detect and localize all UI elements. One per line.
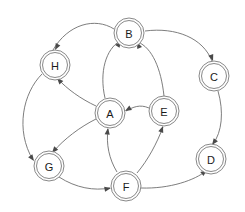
node-d[interactable]: D <box>196 144 226 174</box>
edge-g-to-f <box>59 177 111 192</box>
edge-line <box>213 91 221 144</box>
edge-a-to-g <box>50 119 96 155</box>
edge-line <box>23 74 42 160</box>
edge-c-to-d <box>210 91 222 147</box>
edge-line <box>141 171 206 188</box>
node-inner-circle <box>114 174 139 199</box>
node-inner-circle <box>117 21 142 46</box>
edge-line <box>53 23 114 50</box>
edge-line <box>138 42 164 96</box>
node-inner-circle <box>98 101 123 126</box>
edge-line <box>53 119 96 152</box>
edge-h-to-g <box>23 74 42 162</box>
edge-b-to-h <box>53 23 114 51</box>
edge-a-to-h <box>55 76 96 106</box>
node-g[interactable]: G <box>34 151 64 181</box>
edge-e-to-a <box>124 105 149 113</box>
edge-line <box>58 79 96 106</box>
node-c[interactable]: C <box>199 61 229 91</box>
edge-f-to-a <box>105 128 117 172</box>
node-h[interactable]: H <box>40 50 70 80</box>
edge-e-to-b <box>135 41 164 96</box>
edge-f-to-e <box>137 125 165 173</box>
node-inner-circle <box>152 99 177 124</box>
edge-line <box>107 129 117 172</box>
node-inner-circle <box>202 64 227 89</box>
node-inner-circle <box>43 53 68 78</box>
node-e[interactable]: E <box>149 96 179 126</box>
edge-line <box>103 41 120 98</box>
node-a[interactable]: A <box>95 98 125 128</box>
edge-a-to-b <box>103 40 123 98</box>
arrowhead-icon <box>104 185 111 191</box>
arrowhead-icon <box>105 128 111 135</box>
node-inner-circle <box>199 147 224 172</box>
edge-line <box>59 177 110 189</box>
edge-line <box>145 30 212 61</box>
graph-svg: ABCDEFGH <box>0 0 245 212</box>
edge-f-to-d <box>141 168 209 188</box>
node-b[interactable]: B <box>114 18 144 48</box>
edge-b-to-c <box>145 30 215 62</box>
node-inner-circle <box>37 154 62 179</box>
node-f[interactable]: F <box>111 171 141 201</box>
graph-canvas: ABCDEFGH <box>0 0 245 212</box>
edge-line <box>137 127 163 173</box>
